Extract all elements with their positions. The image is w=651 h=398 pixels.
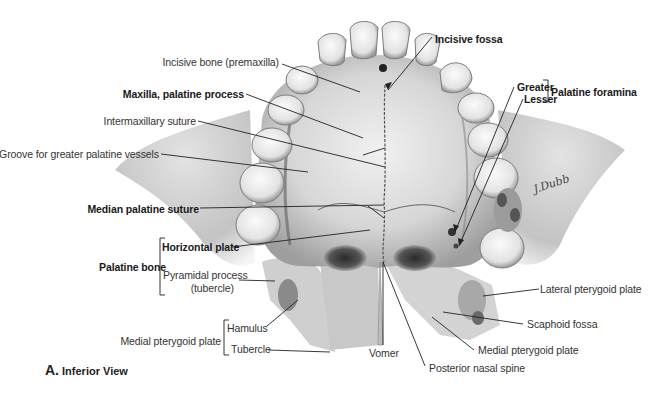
label-hamulus: Hamulus: [227, 322, 268, 334]
label-palatine-bone: Palatine bone: [99, 261, 166, 273]
label-greater: Greater: [517, 81, 554, 93]
palate-illustration: J.Dubb: [0, 0, 651, 398]
label-median-palatine-suture: Median palatine suture: [87, 203, 199, 215]
alveolar-cells: [494, 188, 522, 232]
label-groove-greater-palatine: Groove for greater palatine vessels: [0, 148, 159, 160]
label-pyramidal-process: Pyramidal process: [163, 269, 248, 281]
label-scaphoid-fossa: Scaphoid fossa: [527, 318, 597, 330]
label-medial-pterygoid-plate-right: Medial pterygoid plate: [478, 344, 579, 356]
caption-letter: A.: [45, 362, 59, 378]
label-medial-pterygoid-plate-left: Medial pterygoid plate: [120, 335, 221, 347]
figure-caption: A. Inferior View: [45, 362, 128, 378]
anatomy-figure: J.Dubb Incisive bone (premaxilla) Maxill…: [0, 0, 651, 398]
label-lateral-pterygoid-plate: Lateral pterygoid plate: [540, 283, 642, 295]
label-incisive-bone: Incisive bone (premaxilla): [163, 56, 279, 68]
caption-text: Inferior View: [62, 365, 128, 377]
label-tubercle: Tubercle: [231, 343, 271, 355]
label-maxilla-palatine-process: Maxilla, palatine process: [123, 88, 244, 100]
label-posterior-nasal-spine: Posterior nasal spine: [429, 362, 525, 374]
label-palatine-foramina: Palatine foramina: [551, 86, 637, 98]
label-horizontal-plate: Horizontal plate: [162, 241, 239, 253]
label-incisive-fossa: Incisive fossa: [435, 33, 502, 45]
label-pyramidal-process-tubercle: (tubercle): [191, 282, 234, 294]
label-intermaxillary-suture: Intermaxillary suture: [104, 115, 196, 127]
label-vomer: Vomer: [369, 347, 399, 359]
